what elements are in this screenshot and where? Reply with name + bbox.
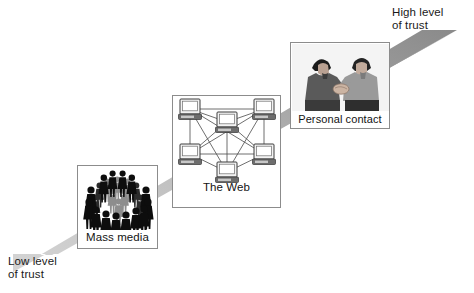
caption-mass-media: Mass media — [78, 231, 157, 243]
panel-the-web: The Web — [172, 95, 281, 208]
caption-personal-contact: Personal contact — [291, 113, 389, 125]
handshake-photo-icon — [292, 44, 390, 111]
diagram-canvas: Low level of trust High level of trust — [0, 0, 474, 293]
panel-mass-media: Mass media — [77, 165, 158, 249]
computer-network-icon — [173, 96, 281, 184]
caption-the-web: The Web — [173, 181, 280, 193]
panel-personal-contact: Personal contact — [290, 42, 390, 129]
crowd-of-people-icon — [78, 168, 158, 230]
high-trust-label: High level of trust — [392, 6, 444, 32]
low-trust-label: Low level of trust — [8, 255, 57, 281]
